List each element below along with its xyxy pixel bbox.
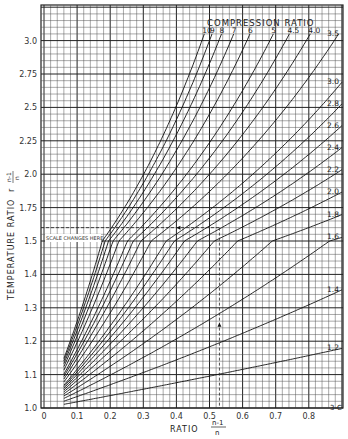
- curve-label: 2.4: [327, 143, 339, 152]
- curve-label: 1.6: [327, 232, 339, 241]
- curve-label: 1.2: [327, 343, 339, 352]
- x-tick-label: 0: [41, 412, 46, 421]
- svg-text:TEMPERATURE RATIO: TEMPERATURE RATIO: [7, 199, 16, 301]
- chart-title: COMPRESSION RATIO: [207, 18, 315, 28]
- temperature-ratio-chart: 1.01.11.21.31.41.51.752.02.252.52.753.00…: [0, 0, 348, 439]
- y-tick-label: 2.0: [24, 170, 37, 179]
- x-tick-label: 0.8: [302, 412, 315, 421]
- curve-label: 3.5: [327, 29, 339, 38]
- corner-label: 3-C: [330, 404, 342, 412]
- svg-text:n-1: n-1: [5, 172, 12, 182]
- y-tick-label: 1.75: [19, 204, 37, 213]
- curve-label: 2.8: [327, 99, 339, 108]
- y-axis-title: TEMPERATURE RATIO r n-1 n: [5, 171, 20, 301]
- x-tick-label: 0.6: [236, 412, 249, 421]
- y-tick-label: 3.0: [24, 37, 37, 46]
- x-tick-label: 0.7: [269, 412, 282, 421]
- x-tick-label: 0.2: [104, 412, 117, 421]
- y-tick-label: 1.1: [24, 371, 37, 380]
- curve-label: 2.2: [327, 165, 339, 174]
- y-tick-label: 1.3: [24, 304, 37, 313]
- svg-text:n: n: [215, 429, 219, 437]
- svg-text:r: r: [7, 188, 16, 192]
- y-tick-label: 1.4: [24, 270, 37, 279]
- y-tick-label: 2.75: [19, 70, 37, 79]
- curve-label: 1.4: [327, 285, 339, 294]
- y-tick-label: 2.5: [24, 103, 37, 112]
- x-tick-label: 0.1: [71, 412, 84, 421]
- x-axis-title: RATIO n-1 n: [170, 419, 226, 437]
- curve-label: 2.6: [327, 121, 339, 130]
- curve-label: 1.8: [327, 210, 339, 219]
- y-tick-label: 1.0: [24, 404, 37, 413]
- x-tick-label: 0.4: [170, 412, 183, 421]
- svg-text:n: n: [13, 176, 20, 180]
- svg-text:RATIO: RATIO: [170, 425, 199, 434]
- svg-text:SCALE CHANGES HERE: SCALE CHANGES HERE: [46, 235, 103, 241]
- grid: [41, 5, 343, 408]
- curve-label: 3.0: [327, 77, 339, 86]
- y-tick-label: 1.2: [24, 337, 37, 346]
- y-tick-label: 1.5: [24, 237, 37, 246]
- curve-label: 2.0: [327, 187, 339, 196]
- svg-text:n-1: n-1: [212, 419, 223, 427]
- scale-change-annotation: SCALE CHANGES HERE: [45, 234, 103, 242]
- y-tick-label: 2.25: [19, 137, 37, 146]
- x-tick-label: 0.3: [137, 412, 150, 421]
